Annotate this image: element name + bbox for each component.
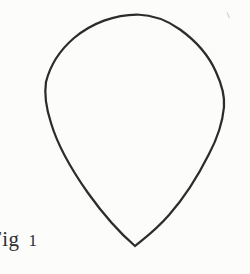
scanned-figure-page: Fig1 xyxy=(0,0,250,274)
figure-caption-label: Fig xyxy=(0,227,20,251)
figure-caption-number: 1 xyxy=(29,231,38,250)
print-speck-artifact xyxy=(227,13,230,19)
teardrop-curve xyxy=(45,15,224,247)
figure-caption: Fig1 xyxy=(0,229,37,250)
figure-drawing xyxy=(0,0,250,274)
